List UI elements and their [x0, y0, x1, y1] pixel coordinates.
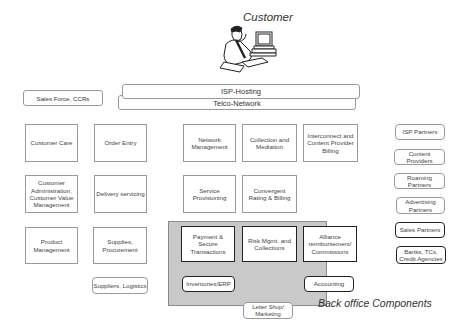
advertising-partners-box: Advertising Partners [396, 197, 445, 214]
banks-credit-agencies-box: Banks, TCs, Credit Agencies [396, 246, 446, 264]
payment-label: Payment & Secure Transactions [183, 233, 233, 255]
accounting-box: Accounting [304, 276, 354, 292]
network-management-box: Network Management [183, 124, 236, 162]
isp-hosting-label: ISP-Hosting [221, 87, 261, 96]
alliance-box: Alliance reimbursement/ Commissions [303, 226, 357, 262]
suppliers-logistics-box: Suppliers, Logistics [92, 277, 148, 294]
inventories-erp-label: Inventories/ERP [186, 280, 231, 287]
alliance-label: Alliance reimbursement/ Commissions [305, 233, 355, 255]
accounting-label: Accounting [314, 280, 345, 287]
sales-partners-box: Sales Partners [395, 222, 445, 238]
order-entry-label: Order Entry [105, 139, 137, 146]
interconnect-billing-label: Interconnect and Content Provider Billin… [305, 132, 356, 154]
telco-network-label: Telco-Network [213, 99, 261, 108]
letter-shop-label: Letter Shop/ Marketing [245, 304, 291, 317]
customer-administration-label: Customer Administration, Customer Value … [27, 179, 76, 209]
customer-administration-box: Customer Administration, Customer Value … [25, 175, 78, 213]
product-management-label: Product Management [27, 238, 76, 253]
collection-mediation-box: Collection and Mediation [242, 124, 297, 162]
suppliers-logistics-label: Suppliers, Logistics [93, 282, 146, 289]
sales-force-label: Sales Force, CCRs [37, 95, 90, 102]
service-provisioning-box: Service Provisioning [183, 175, 236, 213]
sales-partners-label: Sales Partners [400, 226, 441, 233]
network-management-label: Network Management [185, 136, 234, 151]
risk-management-box: Risk Mgmt. and Collections [242, 226, 297, 262]
roaming-partners-box: Roaming Partners [394, 173, 445, 189]
product-management-box: Product Management [25, 227, 78, 264]
customer-title: Customer [243, 11, 293, 23]
content-providers-label: Content Providers [396, 150, 443, 165]
convergent-rating-box: Convergent Rating & Billing [242, 175, 297, 213]
letter-shop-box: Letter Shop/ Marketing [243, 302, 293, 319]
isp-partners-box: ISP Partners [395, 124, 445, 140]
content-providers-box: Content Providers [394, 149, 445, 165]
service-provisioning-label: Service Provisioning [185, 187, 234, 202]
customer-care-label: Customer Care [31, 139, 73, 146]
customer-care-box: Customer Care [25, 124, 78, 162]
supplies-procurement-box: Supplies, Procurement [93, 227, 147, 264]
order-entry-box: Order Entry [94, 124, 147, 162]
delivery-servicing-box: Delivery servicing [94, 175, 147, 213]
advertising-partners-label: Advertising Partners [398, 198, 443, 213]
convergent-rating-label: Convergent Rating & Billing [244, 187, 295, 202]
supplies-procurement-label: Supplies, Procurement [95, 238, 145, 253]
roaming-partners-label: Roaming Partners [396, 174, 443, 189]
payment-box: Payment & Secure Transactions [181, 226, 235, 262]
interconnect-billing-box: Interconnect and Content Provider Billin… [303, 124, 358, 162]
isp-hosting-bar: ISP-Hosting [122, 84, 360, 99]
inventories-erp-box: Inventories/ERP [182, 276, 235, 292]
sales-force-box: Sales Force, CCRs [23, 90, 103, 106]
collection-mediation-label: Collection and Mediation [244, 136, 295, 151]
risk-management-label: Risk Mgmt. and Collections [244, 237, 295, 252]
isp-partners-label: ISP Partners [403, 128, 438, 135]
banks-credit-agencies-label: Banks, TCs, Credit Agencies [398, 248, 444, 263]
delivery-servicing-label: Delivery servicing [96, 190, 144, 197]
person-at-computer-icon [218, 24, 280, 74]
back-office-title: Back office Components [318, 297, 432, 309]
